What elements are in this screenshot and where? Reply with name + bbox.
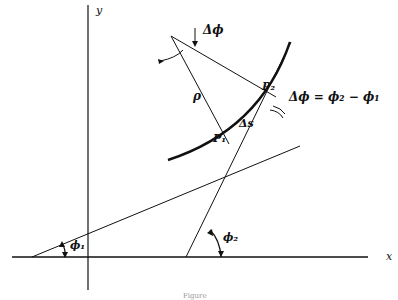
curve bbox=[168, 42, 290, 160]
rho-label: ρ bbox=[193, 89, 201, 103]
delta-phi-equation: Δϕ = ϕ₂ − ϕ₁ bbox=[289, 90, 380, 104]
phi1-label: ϕ₁ bbox=[70, 239, 85, 252]
x-axis-label: x bbox=[386, 250, 392, 263]
curvature-diagram bbox=[0, 0, 398, 300]
delta-phi-label-top: Δϕ bbox=[203, 23, 224, 37]
delta-s-label: Δs bbox=[239, 117, 254, 130]
radius-line-2 bbox=[171, 36, 276, 97]
p1-label: P₁ bbox=[213, 132, 226, 145]
phi2-label: ϕ₂ bbox=[223, 231, 238, 244]
figure-caption: Figure bbox=[183, 292, 207, 300]
y-axis-label: y bbox=[96, 4, 102, 17]
p2-label: P₂ bbox=[262, 80, 275, 93]
